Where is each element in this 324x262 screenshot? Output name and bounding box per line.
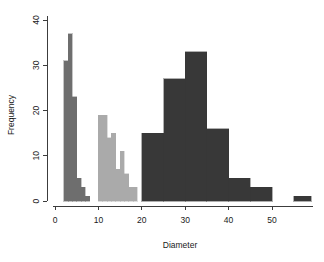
histogram-bar bbox=[116, 169, 120, 201]
histogram-bar bbox=[111, 133, 115, 201]
x-tick-label: 0 bbox=[53, 215, 58, 225]
y-tick-label: 10 bbox=[31, 151, 41, 161]
histogram-bar bbox=[85, 196, 89, 201]
x-axis-title: Diameter bbox=[163, 240, 198, 250]
histogram-bar bbox=[81, 187, 85, 201]
histogram-bar bbox=[207, 129, 229, 201]
histogram-bar bbox=[129, 187, 133, 201]
histogram-bar bbox=[294, 196, 311, 201]
x-tick-label: 40 bbox=[224, 215, 234, 225]
x-tick-label: 30 bbox=[180, 215, 190, 225]
histogram-bar bbox=[229, 178, 251, 201]
y-tick-label: 20 bbox=[31, 106, 41, 116]
x-tick-label: 20 bbox=[137, 215, 147, 225]
histogram-bar bbox=[164, 79, 186, 201]
histogram-bar bbox=[77, 178, 81, 201]
y-axis-title: Frequency bbox=[6, 94, 16, 135]
histogram-bar bbox=[124, 174, 128, 201]
plot-area: 01020304050010203040 Diameter Frequency bbox=[0, 0, 324, 262]
histogram-bar bbox=[250, 187, 272, 201]
histogram-bar bbox=[133, 187, 137, 201]
histogram-bar bbox=[64, 61, 68, 201]
histogram-bar bbox=[98, 115, 102, 201]
histogram-bar bbox=[120, 151, 124, 201]
histogram-bar bbox=[72, 97, 76, 201]
histogram-figure: 01020304050010203040 Diameter Frequency bbox=[0, 0, 324, 262]
histogram-bar bbox=[107, 138, 111, 201]
x-tick-label: 50 bbox=[267, 215, 277, 225]
histogram-bar bbox=[103, 115, 107, 201]
histogram-bar bbox=[185, 52, 207, 201]
histogram-bar bbox=[142, 133, 164, 201]
histogram-bar bbox=[68, 34, 72, 201]
x-tick-label: 10 bbox=[94, 215, 104, 225]
y-tick-label: 30 bbox=[31, 60, 41, 70]
y-tick-label: 0 bbox=[31, 198, 41, 203]
y-tick-label: 40 bbox=[31, 15, 41, 25]
